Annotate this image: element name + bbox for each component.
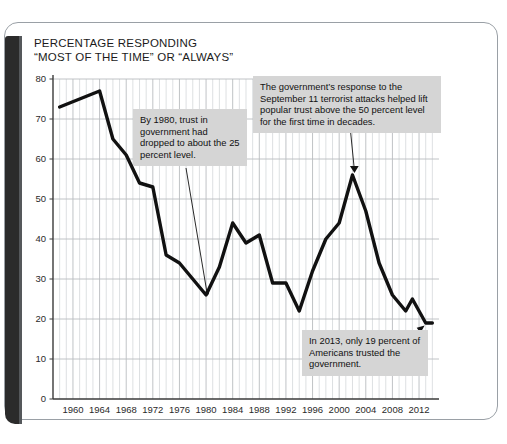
svg-text:1976: 1976	[169, 404, 190, 415]
svg-text:1980: 1980	[195, 404, 216, 415]
svg-text:40: 40	[35, 233, 46, 244]
svg-text:1988: 1988	[249, 404, 270, 415]
svg-text:1972: 1972	[142, 404, 163, 415]
svg-text:30: 30	[35, 273, 46, 284]
annotation-1980-trust-drop: By 1980, trust in government had dropped…	[133, 109, 247, 166]
svg-text:0: 0	[41, 393, 46, 404]
svg-text:80: 80	[35, 73, 46, 84]
svg-text:1960: 1960	[62, 404, 83, 415]
svg-text:1964: 1964	[89, 404, 110, 415]
svg-text:2008: 2008	[382, 404, 403, 415]
svg-text:20: 20	[35, 313, 46, 324]
svg-text:60: 60	[35, 153, 46, 164]
annotation-september-11-trust-lift: The government’s response to the Septemb…	[253, 76, 441, 133]
svg-text:2000: 2000	[329, 404, 350, 415]
svg-text:2012: 2012	[408, 404, 429, 415]
svg-text:1996: 1996	[302, 404, 323, 415]
svg-text:10: 10	[35, 353, 46, 364]
x-axis-tick-labels: 1960196419681972197619801984198819921996…	[62, 404, 429, 415]
annotation-2013-nineteen-percent: In 2013, only 19 percent of Americans tr…	[302, 330, 428, 376]
y-axis-tick-labels: 01020304050607080	[35, 73, 46, 404]
trust-in-government-line-chart: 01020304050607080 1960196419681972197619…	[0, 0, 507, 444]
svg-text:2004: 2004	[355, 404, 376, 415]
svg-text:1968: 1968	[116, 404, 137, 415]
figure-root: PERCENTAGE RESPONDING “MOST OF THE TIME”…	[0, 0, 507, 444]
svg-text:1992: 1992	[275, 404, 296, 415]
svg-text:50: 50	[35, 193, 46, 204]
svg-text:1984: 1984	[222, 404, 243, 415]
chart-plot-area: 01020304050607080 1960196419681972197619…	[0, 0, 507, 444]
svg-text:70: 70	[35, 113, 46, 124]
